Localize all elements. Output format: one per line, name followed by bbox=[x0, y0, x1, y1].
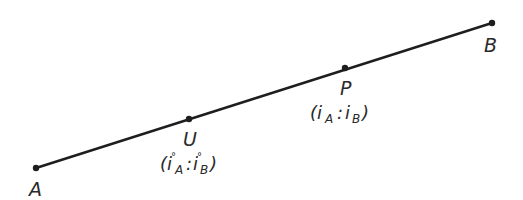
p-coord-i2: i bbox=[345, 102, 350, 123]
u-coordinates: (i ° A : i ° B ) bbox=[160, 151, 217, 177]
p-coord-sub-a: A bbox=[324, 112, 333, 126]
p-coord-close: ) bbox=[360, 102, 369, 123]
label-b: B bbox=[484, 34, 497, 56]
u-coord-sup-a: ° bbox=[171, 151, 176, 162]
p-coord-open: (i bbox=[310, 102, 322, 123]
label-u: U bbox=[183, 128, 197, 150]
u-coord-sub-b: B bbox=[200, 163, 208, 177]
point-a bbox=[33, 165, 39, 171]
label-a: A bbox=[27, 178, 42, 200]
line-segment-diagram: A B U P (i ° A : i ° B ) (i A : i B ) bbox=[0, 0, 523, 200]
p-coord-sub-b: B bbox=[352, 112, 360, 126]
p-coordinates: (i A : i B ) bbox=[310, 102, 369, 126]
point-p bbox=[342, 65, 348, 71]
u-coord-close: ) bbox=[208, 153, 217, 174]
p-coord-colon: : bbox=[337, 102, 343, 123]
point-b bbox=[489, 20, 495, 26]
label-p: P bbox=[340, 77, 352, 99]
u-coord-sup-b: ° bbox=[197, 151, 202, 162]
u-coord-colon: : bbox=[186, 153, 192, 174]
segment-ab bbox=[36, 23, 492, 168]
u-coord-sub-a: A bbox=[174, 163, 183, 177]
point-u bbox=[186, 116, 192, 122]
